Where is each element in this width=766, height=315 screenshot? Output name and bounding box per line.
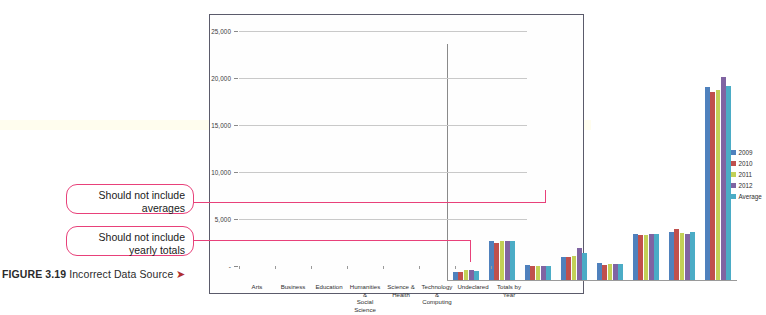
- bar-group[interactable]: [561, 45, 588, 280]
- y-tick-mark: [234, 172, 238, 173]
- bar-2010-totals-by-year[interactable]: [710, 92, 715, 280]
- x-tick-label-education: Education: [311, 283, 347, 291]
- x-tick-label-line: Social Science: [347, 298, 383, 313]
- y-tick-label: 20,000: [195, 75, 231, 82]
- bar-2012-business[interactable]: [505, 241, 510, 280]
- bar-group[interactable]: [525, 45, 552, 280]
- x-tick-mark: [491, 266, 492, 269]
- x-tick-mark: [311, 266, 312, 269]
- legend-swatch-average: [731, 194, 736, 199]
- callout-totals-line1: Should not include: [73, 231, 185, 244]
- bar-average-technology-computing[interactable]: [654, 234, 659, 280]
- bar-2010-arts[interactable]: [458, 272, 463, 280]
- bar-2010-science-health[interactable]: [602, 265, 607, 281]
- callout-should-not-include-averages: Should not include averages: [66, 184, 194, 214]
- leader-line-totals-horizontal: [194, 240, 471, 241]
- bar-group[interactable]: [489, 45, 516, 280]
- bar-2011-science-health[interactable]: [608, 264, 613, 280]
- x-tick-label-arts: Arts: [239, 283, 275, 291]
- bar-2012-science-health[interactable]: [613, 264, 618, 280]
- x-tick-label-line: Science &: [383, 283, 419, 291]
- bar-average-science-health[interactable]: [618, 264, 623, 280]
- bar-average-education[interactable]: [546, 266, 551, 280]
- x-tick-label-line: Education: [311, 283, 347, 291]
- bar-group[interactable]: [597, 45, 624, 280]
- bar-2009-totals-by-year[interactable]: [705, 87, 710, 280]
- bar-average-undeclared[interactable]: [690, 232, 695, 280]
- callout-totals-line2: yearly totals: [73, 244, 185, 257]
- bar-2011-undeclared[interactable]: [680, 233, 685, 280]
- bar-2011-arts[interactable]: [464, 270, 469, 280]
- bar-2012-education[interactable]: [541, 266, 546, 280]
- leader-line-totals-vertical: [470, 240, 471, 262]
- bar-2011-totals-by-year[interactable]: [716, 90, 721, 280]
- legend-label-average: Average: [739, 193, 762, 200]
- bar-2009-humanities-social-science[interactable]: [561, 257, 566, 281]
- bar-2012-undeclared[interactable]: [685, 234, 690, 280]
- bar-2009-business[interactable]: [489, 241, 494, 280]
- legend-item-average[interactable]: Average: [731, 191, 766, 202]
- x-tick-label-technology-computing: Technology &Computing: [419, 283, 455, 306]
- legend-swatch-2010: [731, 161, 736, 166]
- bar-group[interactable]: [669, 45, 696, 280]
- y-tick-mark: [234, 31, 238, 32]
- chart-frame[interactable]: -5,00010,00015,00020,00025,000 ArtsBusin…: [209, 14, 584, 294]
- bar-2012-technology-computing[interactable]: [649, 234, 654, 280]
- x-tick-label-line: Undeclared: [455, 283, 491, 291]
- chart-legend[interactable]: 2009201020112012Average: [731, 147, 766, 202]
- x-tick-label-line: Humanities &: [347, 283, 383, 298]
- x-tick-label-line: Totals by Year: [491, 283, 527, 298]
- bar-2010-business[interactable]: [494, 243, 499, 280]
- bar-2010-technology-computing[interactable]: [638, 235, 643, 280]
- y-tick-label: 25,000: [195, 28, 231, 35]
- plot-area[interactable]: [448, 45, 736, 280]
- callout-averages-line2: averages: [73, 202, 185, 215]
- x-tick-label-line: Health: [383, 291, 419, 299]
- bar-2010-education[interactable]: [530, 266, 535, 280]
- x-tick-mark: [455, 266, 456, 269]
- bar-2010-undeclared[interactable]: [674, 229, 679, 280]
- y-tick-label: 5,000: [195, 216, 231, 223]
- bar-2010-humanities-social-science[interactable]: [566, 257, 571, 280]
- bar-2012-totals-by-year[interactable]: [721, 77, 726, 280]
- bar-group[interactable]: [633, 45, 660, 280]
- legend-item-2010[interactable]: 2010: [731, 158, 766, 169]
- bar-2011-technology-computing[interactable]: [644, 235, 649, 280]
- legend-swatch-2012: [731, 183, 736, 188]
- x-tick-label-science-health: Science &Health: [383, 283, 419, 298]
- bar-2011-humanities-social-science[interactable]: [572, 256, 577, 280]
- x-tick-label-line: Business: [275, 283, 311, 291]
- callout-should-not-include-yearly-totals: Should not include yearly totals: [66, 226, 194, 256]
- figure-title: Incorrect Data Source: [69, 268, 173, 280]
- bar-2009-arts[interactable]: [453, 272, 458, 280]
- y-tick-mark: [234, 78, 238, 79]
- gridline-25000: [239, 31, 527, 32]
- bar-2009-science-health[interactable]: [597, 263, 602, 280]
- caption-arrow-icon: ➤: [176, 268, 185, 280]
- bar-2012-arts[interactable]: [469, 270, 474, 280]
- bar-group[interactable]: [453, 45, 480, 280]
- y-tick-label: -: [195, 263, 231, 270]
- x-tick-label-line: Arts: [239, 283, 275, 291]
- bar-average-business[interactable]: [510, 241, 515, 280]
- bar-2009-education[interactable]: [525, 265, 530, 280]
- x-tick-label-humanities-social-science: Humanities &Social Science: [347, 283, 383, 313]
- legend-item-2009[interactable]: 2009: [731, 147, 766, 158]
- bar-2009-technology-computing[interactable]: [633, 234, 638, 280]
- legend-item-2012[interactable]: 2012: [731, 180, 766, 191]
- bar-average-arts[interactable]: [474, 271, 479, 280]
- y-tick-label: 15,000: [195, 122, 231, 129]
- bar-2011-business[interactable]: [500, 241, 505, 280]
- legend-item-2011[interactable]: 2011: [731, 169, 766, 180]
- callout-averages-line1: Should not include: [73, 189, 185, 202]
- y-tick-mark: [234, 125, 238, 126]
- bar-group[interactable]: [705, 45, 732, 280]
- figure-caption: FIGURE 3.19 Incorrect Data Source ➤: [2, 268, 187, 282]
- x-axis-line: [447, 280, 737, 281]
- bar-average-humanities-social-science[interactable]: [582, 253, 587, 280]
- bar-2009-undeclared[interactable]: [669, 232, 674, 280]
- bar-2011-education[interactable]: [536, 266, 541, 280]
- bar-2012-humanities-social-science[interactable]: [577, 248, 582, 280]
- legend-label-2009: 2009: [739, 149, 753, 156]
